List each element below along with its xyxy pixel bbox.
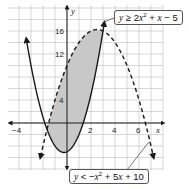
x-tick-2: 2 xyxy=(88,126,93,135)
callout-top-equation: y ≥ 2x2 + x − 5 xyxy=(114,10,183,25)
x-tick-6: 6 xyxy=(136,126,141,135)
y-tick-12: 12 xyxy=(55,50,64,59)
callout-bottom-equation: y < −x2 + 5x + 10 xyxy=(69,169,149,184)
relation: < − xyxy=(78,171,94,182)
plus: + xyxy=(147,12,158,23)
linear-term: + 5 xyxy=(102,171,118,182)
x-tick-4: 4 xyxy=(112,126,117,135)
constant: + 10 xyxy=(123,171,144,182)
x-axis-label: x xyxy=(155,125,160,135)
y-tick-16: 16 xyxy=(55,27,64,36)
y-tick-4: 4 xyxy=(59,96,64,105)
constant: − 5 xyxy=(162,12,178,23)
relation: ≥ 2 xyxy=(123,12,139,23)
graph: −4 2 4 6 x 4 12 16 y xyxy=(0,0,189,189)
y-axis-label: y xyxy=(70,6,75,16)
x-tick-neg4: −4 xyxy=(12,126,22,135)
